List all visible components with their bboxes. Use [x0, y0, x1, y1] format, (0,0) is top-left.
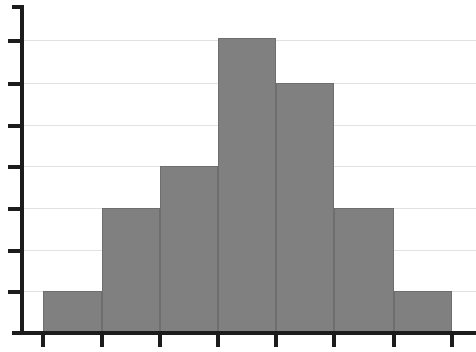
bar-7	[394, 291, 452, 333]
x-axis-tick-1	[100, 331, 104, 347]
y-axis-tick-5	[8, 124, 24, 128]
bar-2	[102, 208, 160, 333]
x-axis-tick-3	[216, 331, 220, 347]
plot-area	[0, 0, 476, 352]
bar-1	[43, 291, 102, 333]
bar-6	[334, 208, 394, 333]
x-axis-tick-7	[450, 331, 454, 347]
x-axis-tick-2	[158, 331, 162, 347]
y-axis-tick-1	[8, 290, 24, 294]
y-axis-top-cap	[12, 5, 24, 9]
x-axis-line	[12, 331, 476, 335]
y-axis-tick-2	[8, 249, 24, 253]
x-axis-tick-6	[392, 331, 396, 347]
y-axis-tick-4	[8, 165, 24, 169]
x-axis-tick-5	[332, 331, 336, 347]
y-axis-tick-6	[8, 82, 24, 86]
y-axis-line	[20, 5, 24, 335]
histogram-chart	[0, 0, 476, 352]
bar-3	[160, 166, 218, 333]
bar-4	[218, 38, 276, 333]
y-axis-tick-3	[8, 207, 24, 211]
bar-5	[276, 83, 334, 333]
y-axis-tick-7	[8, 39, 24, 43]
x-axis-tick-4	[274, 331, 278, 347]
x-axis-tick-0	[41, 331, 45, 347]
